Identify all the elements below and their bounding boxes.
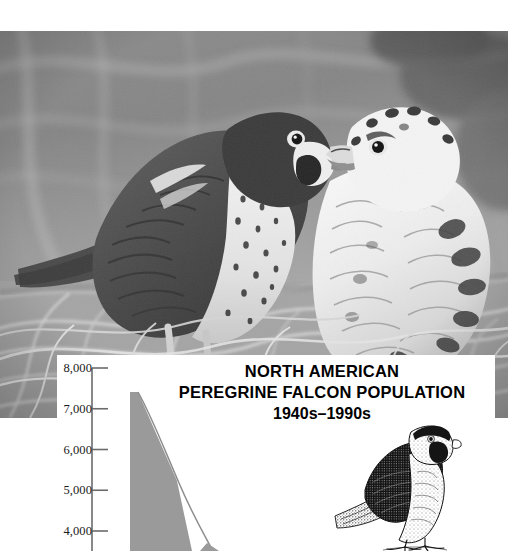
y-axis-tick-labels: 8,000 7,000 6,000 5,000 4,000 [57,355,92,551]
y-tick-label-4000: 4,000 [57,525,92,537]
falcon-illustration-artwork [325,420,465,551]
figure-root: 8,000 7,000 6,000 5,000 4,000 NORTH AMER… [0,0,526,551]
y-tick-label-7000: 7,000 [57,403,92,415]
chart-title: NORTH AMERICAN PEREGRINE FALCON POPULATI… [157,361,487,424]
y-tick-label-5000: 5,000 [57,484,92,496]
y-tick-label-8000: 8,000 [57,362,92,374]
chart-title-line-2: PEREGRINE FALCON POPULATION [157,382,487,403]
y-axis-ticks [92,368,108,531]
chart-title-line-1: NORTH AMERICAN [157,361,487,382]
y-tick-label-6000: 6,000 [57,444,92,456]
falcon-beak [452,440,461,449]
falcon-illustration [325,420,465,551]
population-chart-panel: 8,000 7,000 6,000 5,000 4,000 NORTH AMER… [57,355,495,551]
